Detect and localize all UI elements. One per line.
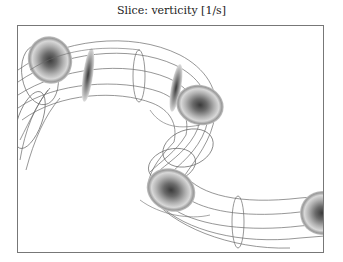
slice-disk-1 bbox=[21, 30, 79, 90]
vorticity-slices bbox=[21, 30, 343, 235]
slice-disk-6 bbox=[300, 191, 343, 235]
slice-disk-2 bbox=[79, 48, 96, 103]
tube-visualization bbox=[0, 0, 343, 262]
